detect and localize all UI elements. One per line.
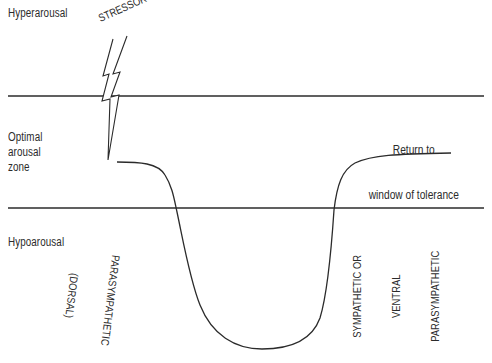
- descent-label: PARASYMPATHETIC (DORSAL): [33, 245, 148, 350]
- zone-label-optimal-line-3: zone: [8, 160, 42, 175]
- zone-label-hyperarousal: Hyperarousal: [8, 6, 68, 21]
- ascent-label-line-1: SYMPATHETIC OR: [351, 250, 364, 344]
- lightning-bolt-icon: [102, 36, 127, 160]
- window-of-tolerance-diagram: Hyperarousal Optimal arousal zone Hypoar…: [0, 0, 492, 363]
- zone-label-optimal-line-1: Optimal: [8, 130, 42, 145]
- descent-label-line-2: (DORSAL): [59, 248, 83, 342]
- descent-label-line-1: PARASYMPATHETIC: [98, 253, 122, 347]
- return-label: Return to window of tolerance: [350, 113, 478, 233]
- return-label-line-1: Return to: [350, 143, 478, 158]
- zone-label-optimal-line-2: arousal: [8, 145, 42, 160]
- zone-label-optimal: Optimal arousal zone: [8, 130, 42, 175]
- ascent-label-line-2: VENTRAL: [390, 250, 403, 344]
- return-label-line-2: window of tolerance: [350, 188, 478, 203]
- ascent-label: SYMPATHETIC OR VENTRAL PARASYMPATHETIC: [325, 250, 468, 344]
- ascent-label-line-3: PARASYMPATHETIC: [429, 250, 442, 344]
